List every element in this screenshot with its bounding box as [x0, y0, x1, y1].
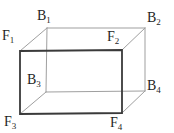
edge-back-left: [46, 28, 47, 92]
vertex-label-F2: F2: [107, 30, 119, 46]
vertex-subscript: 4: [156, 85, 161, 95]
edge-connector-top-right: [122, 28, 145, 50]
vertex-letter: B: [27, 72, 36, 87]
edge-back-bottom: [46, 91, 145, 92]
edge-connector-bottom-right: [122, 91, 145, 113]
vertex-letter: F: [107, 29, 115, 44]
box-diagram: B1 B2 F1 F2 B3 B4 F3 F4: [0, 0, 174, 133]
vertex-label-B3: B3: [27, 73, 41, 89]
edge-connector-top-left: [20, 28, 47, 51]
back-edges: [20, 28, 145, 114]
vertex-letter: F: [2, 28, 10, 43]
edge-connector-bottom-left: [20, 92, 46, 114]
vertex-label-B1: B1: [37, 9, 51, 25]
vertex-letter: B: [147, 78, 156, 93]
vertex-letter: F: [4, 114, 12, 129]
vertex-label-F4: F4: [110, 116, 122, 132]
vertex-letter: B: [37, 8, 46, 23]
vertex-subscript: 2: [156, 17, 161, 27]
vertex-label-B2: B2: [147, 11, 161, 27]
vertex-letter: B: [147, 10, 156, 25]
vertex-label-B4: B4: [147, 79, 161, 95]
vertex-letter: F: [110, 115, 118, 130]
vertex-subscript: 3: [12, 121, 17, 131]
vertex-label-F3: F3: [4, 115, 16, 131]
vertex-subscript: 4: [118, 122, 123, 132]
vertex-subscript: 2: [115, 36, 120, 46]
vertex-subscript: 1: [46, 15, 51, 25]
vertex-subscript: 1: [10, 35, 15, 45]
vertex-subscript: 3: [36, 79, 41, 89]
vertex-label-F1: F1: [2, 29, 14, 45]
